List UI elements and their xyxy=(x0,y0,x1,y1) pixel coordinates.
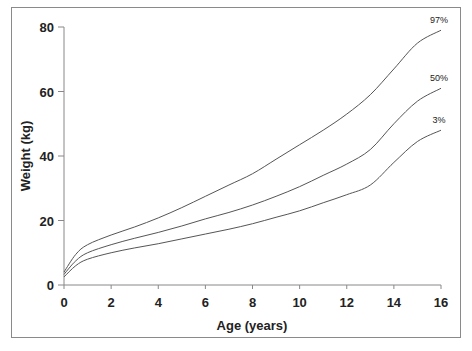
curve-50pct xyxy=(64,88,441,274)
x-tick-label: 6 xyxy=(202,295,209,310)
x-tick-label: 0 xyxy=(60,295,67,310)
curves xyxy=(64,30,441,277)
y-tick-label: 80 xyxy=(40,20,54,35)
axes: 0204060800246810121416 xyxy=(40,20,449,310)
curve-97pct xyxy=(64,30,441,272)
series-label: 3% xyxy=(432,115,445,125)
series-label: 97% xyxy=(430,15,448,25)
curve-3pct xyxy=(64,130,441,277)
x-tick-label: 4 xyxy=(155,295,163,310)
y-axis-title: Weight (kg) xyxy=(18,121,33,192)
x-tick-label: 14 xyxy=(387,295,402,310)
x-tick-label: 8 xyxy=(249,295,256,310)
x-tick-label: 10 xyxy=(292,295,306,310)
x-tick-label: 2 xyxy=(108,295,115,310)
y-tick-label: 40 xyxy=(40,149,54,164)
series-label: 50% xyxy=(430,73,448,83)
y-tick-label: 0 xyxy=(47,278,54,293)
x-tick-label: 12 xyxy=(340,295,354,310)
x-axis-title: Age (years) xyxy=(217,318,288,333)
y-tick-label: 60 xyxy=(40,85,54,100)
growth-chart: 0204060800246810121416 97%50%3% Age (yea… xyxy=(0,0,472,351)
x-tick-label: 16 xyxy=(434,295,448,310)
y-tick-label: 20 xyxy=(40,214,54,229)
